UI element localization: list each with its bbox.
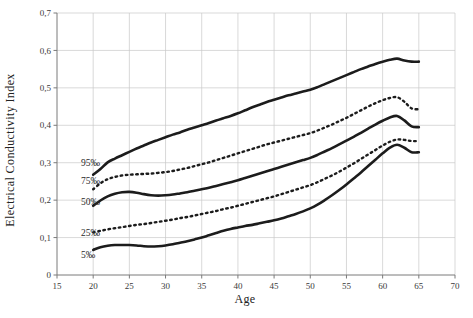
- percentile-label-4: 5‰: [81, 250, 96, 260]
- chart-container: 15202530354045505560657000,10,20,30,40,5…: [0, 0, 473, 318]
- y-tick-label: 0,7: [40, 8, 52, 18]
- x-tick-label: 60: [378, 281, 388, 291]
- y-tick-label: 0,5: [40, 83, 52, 93]
- x-tick-label: 70: [451, 281, 461, 291]
- x-axis-title: Age: [234, 292, 255, 306]
- y-tick-label: 0,2: [40, 195, 51, 205]
- x-tick-label: 35: [197, 281, 207, 291]
- y-tick-label: 0,6: [40, 46, 52, 56]
- x-tick-label: 45: [270, 281, 280, 291]
- percentile-label-0: 95‰: [81, 158, 101, 168]
- x-tick-label: 40: [233, 281, 243, 291]
- percentile-line-chart: 15202530354045505560657000,10,20,30,40,5…: [0, 0, 473, 318]
- percentile-label-2: 50‰: [81, 197, 101, 207]
- x-tick-label: 55: [342, 281, 352, 291]
- x-tick-label: 20: [89, 281, 99, 291]
- x-tick-label: 25: [125, 281, 135, 291]
- y-tick-label: 0,1: [40, 233, 51, 243]
- chart-background: [0, 0, 473, 318]
- y-tick-label: 0,3: [40, 158, 52, 168]
- x-tick-label: 15: [53, 281, 63, 291]
- percentile-label-1: 75‰: [81, 176, 101, 186]
- x-tick-label: 50: [306, 281, 316, 291]
- percentile-label-3: 25‰: [81, 228, 101, 238]
- y-tick-label: 0,4: [40, 120, 52, 130]
- x-tick-label: 65: [414, 281, 424, 291]
- y-tick-label: 0: [47, 270, 52, 280]
- x-tick-label: 30: [161, 281, 171, 291]
- y-axis-title: Electrical Conductivity Index: [3, 73, 17, 227]
